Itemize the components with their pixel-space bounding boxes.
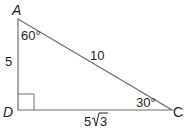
right-angle-marker [18,94,34,110]
side-label-dc: 5 3 [84,113,108,129]
vertex-label-c: C [173,104,183,120]
svg-text:5: 5 [84,114,91,129]
angle-label-a: 60° [21,28,41,43]
angle-label-c: 30° [136,95,156,110]
side-label-ac: 10 [90,48,104,63]
triangle-diagram: A D C 60° 30° 5 10 5 3 [0,0,185,129]
vertex-label-a: A [11,2,21,18]
svg-text:3: 3 [100,114,107,129]
side-label-ad: 5 [5,54,12,69]
vertex-label-d: D [3,104,13,120]
